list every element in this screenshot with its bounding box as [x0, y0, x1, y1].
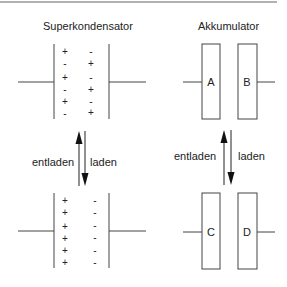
battery-arrows: [221, 130, 235, 185]
supercap-bottom: [18, 193, 146, 268]
supercap-discharge-label: entladen: [32, 156, 74, 168]
electrode-label-a: A: [202, 76, 220, 88]
sign: +: [60, 97, 70, 107]
supercap-charge-label: laden: [90, 156, 117, 168]
sign: -: [90, 208, 100, 218]
sign: +: [86, 85, 96, 95]
sign: -: [90, 233, 100, 243]
sign: -: [60, 109, 70, 119]
sign: +: [60, 208, 70, 218]
battery-bottom: [183, 193, 275, 269]
battery-discharge-label: entladen: [174, 150, 216, 162]
sign: -: [86, 47, 96, 57]
battery-charge-label: laden: [238, 150, 265, 162]
electrode-label-c: C: [202, 226, 220, 238]
sign: +: [60, 222, 70, 232]
sign: +: [60, 246, 70, 256]
electrode-label-b: B: [238, 76, 256, 88]
sign: -: [90, 221, 100, 231]
supercap-title: Superkondensator: [43, 20, 133, 32]
battery-top: [183, 44, 275, 119]
sign: +: [60, 196, 70, 206]
supercap-top: [18, 44, 146, 119]
sign: -: [86, 97, 96, 107]
electrode-label-d: D: [238, 226, 256, 238]
sign: -: [90, 196, 100, 206]
sign: -: [60, 59, 70, 69]
sign: +: [60, 73, 70, 83]
battery-title: Akkumulator: [198, 20, 259, 32]
sign: -: [90, 258, 100, 268]
sign: +: [60, 258, 70, 268]
sign: +: [86, 59, 96, 69]
sign: +: [60, 234, 70, 244]
sign: -: [86, 73, 96, 83]
diagram-canvas: [0, 0, 287, 287]
sign: +: [60, 47, 70, 57]
supercap-arrows: [76, 131, 89, 186]
sign: +: [86, 108, 96, 118]
sign: -: [90, 246, 100, 256]
sign: -: [60, 85, 70, 95]
